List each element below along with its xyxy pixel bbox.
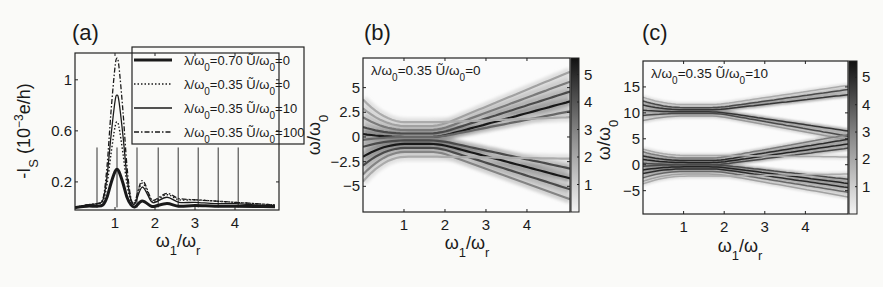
panel-a: (a) λ/ω0=0.70 Ũ/ω0=0λ/ω0=0.35 Ũ/ω0=0λ/ω0… [12, 20, 304, 258]
x-tick-label: 4 [801, 218, 809, 235]
colorbar [849, 61, 857, 214]
heatmap-b: λ/ω0=0.35 Ũ/ω0=0 [363, 58, 570, 212]
y-tick-label: 2.5 [339, 103, 360, 120]
colorbar-tick-label: 5 [862, 68, 870, 85]
x-axis-label-b: ω1/ωr [445, 233, 490, 260]
colorbar-tick-label: 3 [584, 121, 592, 138]
figure: (a) λ/ω0=0.70 Ũ/ω0=0λ/ω0=0.35 Ũ/ω0=0λ/ω0… [0, 0, 883, 287]
y-tick-label: 5 [632, 130, 640, 147]
y-axis-label-c: ω/ω0 [594, 120, 621, 160]
panel-label-a: (a) [72, 20, 99, 45]
y-tick-label: 1 [64, 71, 72, 88]
x-tick-label: 1 [111, 214, 119, 231]
colorbar-tick-label: 2 [862, 150, 870, 167]
y-tick-label: 5 [352, 79, 360, 96]
x-tick-label: 2 [441, 216, 449, 233]
x-tick-label: 4 [523, 216, 531, 233]
colorbar-tick-label: 4 [584, 93, 592, 110]
y-tick-label: −2.5 [330, 153, 360, 170]
x-tick-label: 2 [151, 214, 159, 231]
x-tick-label: 3 [761, 218, 769, 235]
colorbar-tick-label: 2 [584, 148, 592, 165]
colorbar-tick-label: 1 [862, 178, 870, 195]
y-tick-label: −5 [343, 177, 360, 194]
panel-label-b: (b) [364, 20, 391, 45]
x-tick-label: 3 [482, 216, 490, 233]
x-tick-label: 2 [720, 218, 728, 235]
colorbar-tick-label: 4 [862, 96, 870, 113]
x-tick-label: 3 [191, 214, 199, 231]
panel-b: (b) λ/ω0=0.35 Ũ/ω0=0 123452.50−2.5−51234… [304, 20, 592, 260]
panel-label-c: (c) [642, 20, 668, 45]
y-tick-label: −5 [623, 182, 640, 199]
y-tick-label: 0.2 [51, 173, 72, 190]
colorbar-tick-label: 3 [862, 123, 870, 140]
colorbar-tick-label: 1 [584, 176, 592, 193]
y-axis-label-a: -IS (10−3e/h) [12, 83, 41, 178]
y-tick-label: 15 [623, 78, 640, 95]
y-tick-label: 0 [632, 156, 640, 173]
y-tick-label: 0 [352, 128, 360, 145]
y-tick-label: 0.6 [51, 122, 72, 139]
panel-c: (c) λ/ω0=0.35 Ũ/ω0=10 1234151050−512345 … [594, 20, 870, 263]
y-axis-label-b: ω/ω0 [304, 115, 331, 155]
y-tick-label: 10 [623, 104, 640, 121]
x-axis-label-a: ω1/ωr [156, 231, 201, 258]
x-tick-label: 1 [679, 218, 687, 235]
colorbar-tick-label: 5 [584, 66, 592, 83]
colorbar [571, 58, 579, 212]
x-axis-label-c: ω1/ωr [718, 236, 763, 263]
x-tick-label: 4 [231, 214, 239, 231]
heatmap-c: λ/ω0=0.35 Ũ/ω0=10 [643, 61, 848, 214]
x-tick-label: 1 [400, 216, 408, 233]
